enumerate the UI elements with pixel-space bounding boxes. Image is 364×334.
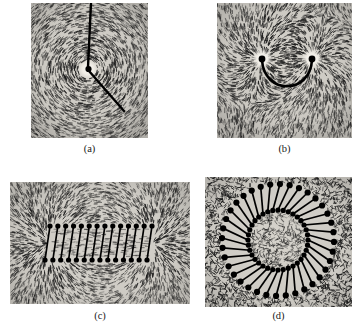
iron-filings-figure: (a) (b) (c) (d) <box>0 0 364 334</box>
caption-b: (b) <box>217 143 352 154</box>
panel-b-current-loop <box>217 3 352 138</box>
caption-c: (c) <box>10 310 190 321</box>
caption-a: (a) <box>31 143 148 154</box>
panel-d-field-image <box>205 177 352 307</box>
panel-a-straight-wire <box>31 3 148 138</box>
panel-d-toroid <box>205 177 352 307</box>
caption-d: (d) <box>205 310 352 321</box>
panel-a-field-image <box>31 3 148 138</box>
panel-c-field-image <box>10 182 190 304</box>
panel-b-field-image <box>217 3 352 138</box>
panel-c-solenoid <box>10 182 190 304</box>
